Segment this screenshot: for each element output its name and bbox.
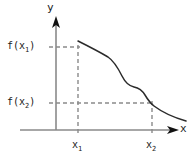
x-tick-label-x2: x2 — [146, 140, 156, 150]
x1-subscript: 1 — [78, 145, 82, 153]
graph-canvas — [0, 0, 195, 163]
fx1-suffix: ) — [29, 40, 35, 51]
x-axis-label: x — [180, 123, 187, 134]
x-tick-label-x1: x1 — [72, 140, 82, 150]
fx2-suffix: ) — [29, 96, 35, 107]
function-curve — [78, 41, 186, 121]
y-tick-label-fx2: f(x2) — [7, 97, 35, 107]
function-graph-figure: y x f(x1) f(x2) x1 x2 — [0, 0, 195, 163]
fx1-prefix: f(x — [7, 40, 25, 51]
y-tick-label-fx1: f(x1) — [7, 41, 35, 51]
x2-subscript: 2 — [152, 145, 156, 153]
y-axis-label: y — [47, 2, 54, 13]
fx2-prefix: f(x — [7, 96, 25, 107]
